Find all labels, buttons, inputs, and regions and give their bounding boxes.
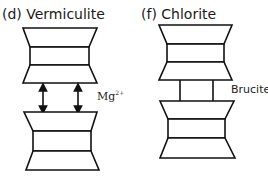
mg-interlayer-arrows bbox=[43, 87, 78, 110]
octahedral-sheet bbox=[33, 131, 91, 151]
mg-ion-label: Mg2+ bbox=[97, 89, 124, 103]
octahedral-sheet bbox=[168, 119, 225, 138]
tetrahedral-sheet-bottom bbox=[159, 62, 232, 80]
octahedral-sheet bbox=[30, 47, 89, 65]
vermiculite-bottom-layer bbox=[24, 112, 99, 170]
tetrahedral-sheet-top bbox=[23, 28, 97, 47]
chlorite-title: (f) Chlorite bbox=[141, 6, 216, 22]
octahedral-sheet bbox=[167, 44, 224, 62]
tetrahedral-sheet-bottom bbox=[160, 138, 235, 158]
tetrahedral-sheet-top bbox=[159, 25, 232, 44]
chlorite-top-layer bbox=[159, 25, 232, 80]
chlorite-bottom-layer bbox=[160, 101, 235, 158]
vermiculite-title: (d) Vermiculite bbox=[2, 6, 105, 22]
tetrahedral-sheet-bottom bbox=[26, 151, 99, 170]
brucite-label: Brucite bbox=[231, 83, 268, 96]
tetrahedral-sheet-top bbox=[24, 112, 97, 131]
tetrahedral-sheet-bottom bbox=[23, 65, 97, 83]
vermiculite-top-layer bbox=[23, 28, 97, 83]
tetrahedral-sheet-top bbox=[160, 101, 234, 119]
clay-mineral-diagram: (d) Vermiculite Mg2+ (f) Chlorite bbox=[0, 0, 268, 177]
chlorite-panel: (f) Chlorite Brucite bbox=[141, 6, 268, 158]
brucite-sheet bbox=[180, 80, 213, 101]
vermiculite-panel: (d) Vermiculite Mg2+ bbox=[2, 6, 124, 170]
